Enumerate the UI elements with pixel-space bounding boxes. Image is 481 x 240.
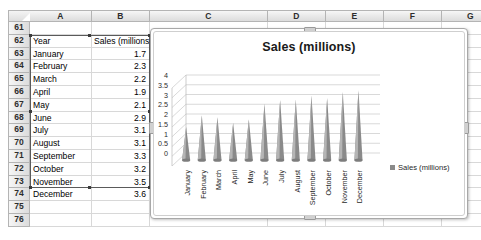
column-header-c[interactable]: C [150,10,268,22]
chart-legend[interactable]: Sales (millions) [390,163,449,172]
cell-A69[interactable]: July [30,124,92,137]
y-axis-tick-3: 3 [164,90,168,99]
y-axis-tick-0: 0 [164,149,168,158]
row-header-69[interactable]: 69 [8,124,30,137]
cell-B70[interactable]: 3.1 [92,137,150,150]
cell-B63[interactable]: 1.7 [92,48,150,61]
row-header-67[interactable]: 67 [8,99,30,112]
cell-A64[interactable]: February [30,60,92,73]
embedded-chart-object[interactable]: Sales (millions) 43.532.521.510.50 Janua… [150,28,468,219]
row-header-68[interactable]: 68 [8,112,30,125]
cell-B62[interactable]: Sales (millions) [92,35,150,48]
column-header-g[interactable]: G [442,10,481,22]
cell-B64[interactable]: 2.3 [92,60,150,73]
y-axis-tick-1: 1 [164,129,168,138]
legend-label-sales: Sales (millions) [398,163,449,172]
cell-B61[interactable] [92,22,150,35]
y-axis-tick-0.5: 0.5 [158,139,168,148]
cell-A63[interactable]: January [30,48,92,61]
spreadsheet-canvas: A B C D E F G 6162YearSales (millions)63… [0,0,481,240]
chart-series-sales[interactable] [182,90,362,162]
y-axis-tick-1.5: 1.5 [158,119,168,128]
cell-B72[interactable]: 3.2 [92,163,150,176]
column-header-f[interactable]: F [384,10,442,22]
cell-B65[interactable]: 2.2 [92,73,150,86]
row-header-61[interactable]: 61 [8,22,30,35]
y-axis-tick-4: 4 [164,71,168,80]
select-all-corner[interactable] [8,10,30,22]
row-header-74[interactable]: 74 [8,188,30,201]
x-axis-label-october: October [324,170,333,196]
cell-A65[interactable]: March [30,73,92,86]
cell-B66[interactable]: 1.9 [92,86,150,99]
cell-B75[interactable] [92,201,150,214]
x-axis-label-september: September [308,170,317,205]
cell-A61[interactable] [30,22,92,35]
cell-A66[interactable]: April [30,86,92,99]
chart-category-axis: JanuaryFebruaryMarchAprilMayJuneJulyAugu… [170,170,382,216]
cell-B68[interactable]: 2.9 [92,112,150,125]
row-header-70[interactable]: 70 [8,137,30,150]
cell-A71[interactable]: September [30,150,92,163]
x-axis-label-march: March [214,170,223,190]
row-header-75[interactable]: 75 [8,201,30,214]
cell-A72[interactable]: October [30,163,92,176]
cell-B76[interactable] [92,214,150,227]
row-header-64[interactable]: 64 [8,60,30,73]
chart-plot-area: 43.532.521.510.50 [170,64,382,168]
x-axis-label-april: April [230,170,239,184]
chart-plot-svg [170,64,382,168]
cell-A73[interactable]: November [30,176,92,189]
x-axis-label-november: November [340,170,349,203]
cell-A75[interactable] [30,201,92,214]
column-header-d[interactable]: D [268,10,326,22]
cell-B67[interactable]: 2.1 [92,99,150,112]
cell-A70[interactable]: August [30,137,92,150]
cell-B74[interactable]: 3.6 [92,188,150,201]
x-axis-label-may: May [246,170,255,184]
x-axis-label-february: February [199,170,208,199]
cell-A67[interactable]: May [30,99,92,112]
chart-area: Sales (millions) 43.532.521.510.50 Janua… [153,31,465,216]
row-header-63[interactable]: 63 [8,48,30,61]
cell-A74[interactable]: December [30,188,92,201]
y-axis-tick-3.5: 3.5 [158,80,168,89]
chart-title: Sales (millions) [154,40,464,54]
cell-B73[interactable]: 3.5 [92,176,150,189]
x-axis-label-december: December [355,170,364,203]
y-axis-tick-2: 2 [164,110,168,119]
cell-A68[interactable]: June [30,112,92,125]
row-header-71[interactable]: 71 [8,150,30,163]
cell-B71[interactable]: 3.3 [92,150,150,163]
column-header-row: A B C D E F G [8,10,481,22]
cell-A62[interactable]: Year [30,35,92,48]
row-header-65[interactable]: 65 [8,73,30,86]
y-axis-tick-2.5: 2.5 [158,100,168,109]
row-header-76[interactable]: 76 [8,214,30,227]
row-header-72[interactable]: 72 [8,163,30,176]
row-header-66[interactable]: 66 [8,86,30,99]
column-header-b[interactable]: B [92,10,150,22]
x-axis-label-august: August [293,170,302,192]
legend-swatch-sales [390,165,395,170]
column-header-e[interactable]: E [326,10,384,22]
cell-A76[interactable] [30,214,92,227]
row-header-62[interactable]: 62 [8,35,30,48]
x-axis-label-june: June [261,170,270,186]
x-axis-label-july: July [277,170,286,183]
cell-B69[interactable]: 3.1 [92,124,150,137]
row-header-73[interactable]: 73 [8,176,30,189]
column-header-a[interactable]: A [30,10,92,22]
x-axis-label-january: January [183,170,192,196]
